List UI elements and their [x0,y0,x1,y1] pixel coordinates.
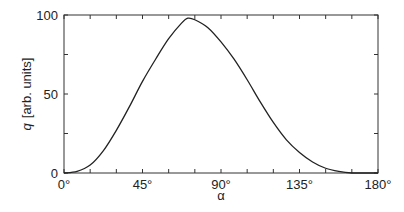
y-tick-label: 100 [36,8,58,23]
x-tick-label: 0° [58,177,70,192]
x-axis-label: α [217,188,225,203]
x-tick-label: 45° [133,177,153,192]
y-axis-unit: [arb. units] [19,58,34,119]
y-tick-labels: 050100 [36,8,58,181]
x-tick-label: 135° [286,177,313,192]
axis-ticks [64,15,378,173]
x-tick-label: 180° [365,177,392,192]
y-tick-label: 50 [44,87,58,102]
y-axis-label: q[arb. units] [19,58,34,131]
chart: 0°45°90°135°180° 050100 α q[arb. units] [0,0,404,212]
data-series-line [64,18,378,173]
y-axis-variable: q [19,122,34,130]
plot-frame [64,15,378,173]
y-tick-label: 0 [51,166,58,181]
